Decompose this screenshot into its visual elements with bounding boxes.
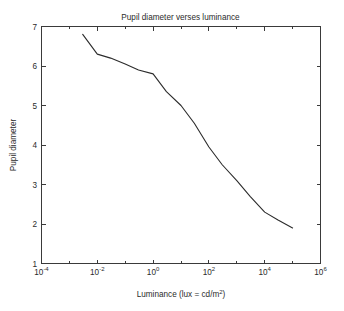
y-tick-label-5: 5 [32, 102, 37, 111]
figure-background [0, 0, 344, 311]
x-axis-title: Luminance (lux = cd/m2) [137, 289, 226, 299]
y-tick-label-7: 7 [32, 23, 37, 32]
y-tick-label-3: 3 [32, 181, 37, 190]
y-axis-title: Pupil diameter [9, 119, 18, 172]
pupil-diameter-line-chart: Pupil diameter verses luminance 1 2 3 4 [0, 0, 344, 311]
y-tick-label-2: 2 [32, 220, 37, 229]
figure-container: Pupil diameter verses luminance 1 2 3 4 [0, 0, 344, 311]
chart-title: Pupil diameter verses luminance [121, 13, 240, 22]
y-tick-label-4: 4 [32, 141, 37, 150]
y-tick-label-6: 6 [32, 62, 37, 71]
